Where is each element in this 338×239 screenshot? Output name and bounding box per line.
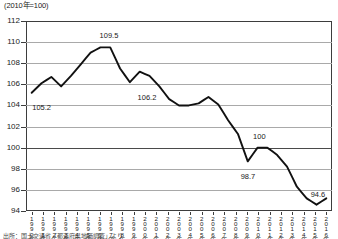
value-label-98.7: 98.7 bbox=[241, 173, 256, 181]
unit-caption: (2010年=100) bbox=[4, 1, 48, 11]
value-label-109.5: 109.5 bbox=[100, 32, 119, 40]
y-tick-label-104: 104 bbox=[7, 101, 20, 109]
x-tick-label-1999年: 1999年 bbox=[130, 216, 138, 239]
x-tick-label-2012年: 2012年 bbox=[277, 216, 285, 239]
y-tick-label-106: 106 bbox=[7, 80, 20, 88]
value-label-106.2: 106.2 bbox=[138, 94, 157, 102]
x-tick-label-2006年: 2006年 bbox=[209, 216, 217, 239]
x-tick-label-2009年: 2009年 bbox=[243, 216, 251, 239]
series-line-chart bbox=[26, 21, 332, 211]
value-label-100: 100 bbox=[253, 133, 266, 141]
y-tick-label-94: 94 bbox=[11, 207, 20, 215]
y-tick-label-96: 96 bbox=[11, 186, 20, 194]
value-label-94.6: 94.6 bbox=[311, 191, 326, 199]
y-tick-label-100: 100 bbox=[7, 144, 20, 152]
index-line-chart: (2010年=100) 949698100102104106108110112 … bbox=[0, 0, 338, 239]
y-tick-label-102: 102 bbox=[7, 123, 20, 131]
x-tick-label-2001年: 2001年 bbox=[152, 216, 160, 239]
x-tick-label-2000年: 2000年 bbox=[141, 216, 149, 239]
value-label-105.2: 105.2 bbox=[32, 104, 51, 112]
source-note: 出所：国土交通省「都道府県地価調査」より bbox=[3, 233, 123, 239]
y-tick-label-98: 98 bbox=[11, 165, 20, 173]
y-tick-label-110: 110 bbox=[7, 38, 20, 46]
x-tick-label-2003年: 2003年 bbox=[175, 216, 183, 239]
x-tick-label-2002年: 2002年 bbox=[164, 216, 172, 239]
x-tick-label-2010年: 2010年 bbox=[254, 216, 262, 239]
x-tick-label-2011年: 2011年 bbox=[266, 216, 274, 239]
y-tick-label-108: 108 bbox=[7, 59, 20, 67]
y-axis: 949698100102104106108110112 bbox=[0, 21, 24, 211]
x-tick-label-2015年: 2015年 bbox=[311, 216, 319, 239]
x-tick-label-2013年: 2013年 bbox=[288, 216, 296, 239]
y-tick-label-112: 112 bbox=[7, 17, 20, 25]
x-tick-label-2005年: 2005年 bbox=[198, 216, 206, 239]
x-tick-label-2014年: 2014年 bbox=[300, 216, 308, 239]
x-tick-label-2008年: 2008年 bbox=[232, 216, 240, 239]
x-tick-label-2007年: 2007年 bbox=[220, 216, 228, 239]
x-tick-label-2004年: 2004年 bbox=[186, 216, 194, 239]
plot-area: 105.2109.5106.298.710094.6 bbox=[26, 21, 332, 211]
x-tick-label-2016年: 2016年 bbox=[322, 216, 330, 239]
series-path bbox=[32, 47, 327, 204]
